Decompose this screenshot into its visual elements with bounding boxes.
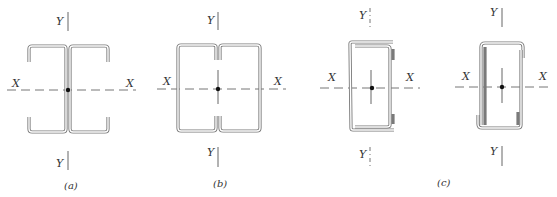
x-label-right-c2: X xyxy=(538,70,548,83)
figure-b: Y Y X X (b) xyxy=(157,12,286,189)
centroid-a xyxy=(66,88,70,92)
caption-b: (b) xyxy=(213,178,227,189)
centroid-c1 xyxy=(370,86,374,90)
x-label-right-a: X xyxy=(125,77,135,90)
figure-c2: Y Y X X xyxy=(455,6,552,166)
y-label-top-c2: Y xyxy=(490,6,499,19)
y-label-bottom-c2: Y xyxy=(490,145,499,158)
centroid-b xyxy=(216,87,220,91)
y-label-top-a: Y xyxy=(56,15,65,28)
figure-a: Y Y X X (a) xyxy=(7,12,136,191)
x-label-left-c1: X xyxy=(327,71,337,84)
y-label-top-c1: Y xyxy=(359,9,368,22)
caption-a: (a) xyxy=(64,180,78,191)
centroid-c2 xyxy=(500,85,504,89)
y-label-bottom-b: Y xyxy=(207,146,216,159)
x-label-left-a: X xyxy=(11,77,21,90)
diagram-canvas: Y Y X X (a) Y Y X X xyxy=(0,0,557,197)
x-label-right-b: X xyxy=(273,75,283,88)
y-label-bottom-a: Y xyxy=(56,157,65,170)
figure-c1: Y Y X X xyxy=(320,8,420,167)
right-lipped-channel-b xyxy=(220,45,260,131)
y-label-bottom-c1: Y xyxy=(359,148,368,161)
left-lipped-channel-b xyxy=(178,45,216,131)
x-label-left-c2: X xyxy=(461,70,471,83)
right-lipped-channel-a xyxy=(70,46,108,132)
inner-lipped-channel-c1 xyxy=(355,46,393,127)
left-lipped-channel-a xyxy=(29,46,66,132)
x-label-right-c1: X xyxy=(405,71,415,84)
y-label-top-b: Y xyxy=(207,14,216,27)
x-label-left-b: X xyxy=(162,75,172,88)
caption-c: (c) xyxy=(437,177,451,188)
